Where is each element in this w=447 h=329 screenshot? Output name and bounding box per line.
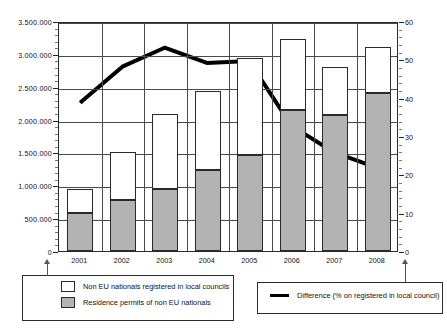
y2-axis-minor-tick xyxy=(399,114,402,115)
bar-segment-permits[interactable] xyxy=(322,115,348,251)
y2-axis-minor-tick xyxy=(399,37,402,38)
bar-segment-permits[interactable] xyxy=(67,213,93,251)
legend-item-permits: Residence permits of non EU nationals xyxy=(61,297,233,308)
legend-label-registered: Non EU nationals registered in local cou… xyxy=(83,283,229,290)
x-axis-tick-label: 2006 xyxy=(284,256,300,265)
bar-group[interactable] xyxy=(152,21,178,251)
gray-square-swatch-icon xyxy=(61,297,75,308)
y2-axis-minor-tick xyxy=(399,145,402,146)
bar-group[interactable] xyxy=(110,21,136,251)
y2-axis-minor-tick xyxy=(399,168,402,169)
bar-segment-registered[interactable] xyxy=(195,91,221,171)
y2-axis-minor-tick xyxy=(399,129,402,130)
y2-axis-minor-tick xyxy=(399,191,402,192)
black-line-swatch-icon xyxy=(270,294,289,297)
bar-segment-registered[interactable] xyxy=(237,58,263,155)
gridline-vertical xyxy=(187,23,188,251)
y2-axis-minor-tick xyxy=(399,91,402,92)
gridline-vertical xyxy=(102,23,103,251)
legend-bars: Non EU nationals registered in local cou… xyxy=(22,275,234,321)
y2-axis-minor-tick xyxy=(399,221,402,222)
y2-axis-minor-tick xyxy=(399,30,402,31)
x-axis-tick-label: 2005 xyxy=(241,256,257,265)
bar-segment-permits[interactable] xyxy=(280,110,306,251)
white-square-swatch-icon xyxy=(61,281,75,292)
y2-axis-minor-tick xyxy=(399,45,402,46)
y2-axis-minor-tick xyxy=(399,160,402,161)
y2-axis-minor-tick xyxy=(399,152,402,153)
y2-axis-minor-tick xyxy=(399,53,402,54)
y2-axis-major-tick xyxy=(399,214,404,215)
legend-item-registered: Non EU nationals registered in local cou… xyxy=(61,281,233,292)
bar-segment-permits[interactable] xyxy=(152,189,178,251)
gridline-vertical xyxy=(272,23,273,251)
y2-axis-minor-tick xyxy=(399,237,402,238)
bar-group[interactable] xyxy=(67,21,93,251)
bar-segment-permits[interactable] xyxy=(237,155,263,251)
plot-area xyxy=(58,22,398,252)
y2-axis-major-tick xyxy=(399,252,404,253)
x-axis-tick-label: 2007 xyxy=(326,256,342,265)
gridline-vertical xyxy=(357,23,358,251)
x-axis-tick-label: 2002 xyxy=(114,256,130,265)
y2-axis-major-tick xyxy=(399,60,404,61)
x-axis-tick-label: 2001 xyxy=(71,256,87,265)
bar-segment-registered[interactable] xyxy=(67,189,93,213)
x-axis-tick-label: 2004 xyxy=(199,256,215,265)
y2-axis-major-tick xyxy=(399,137,404,138)
y-axis-major-tick xyxy=(53,252,58,253)
chart-figure: 0500.0001.000.0001.500.0002.000.0002.500… xyxy=(0,0,447,329)
legend-label-difference: Difference (% on registered in local cou… xyxy=(297,292,439,299)
gridline-vertical xyxy=(144,23,145,251)
legend-item-difference: Difference (% on registered in local cou… xyxy=(270,292,442,299)
x-axis-tick-label: 2008 xyxy=(369,256,385,265)
legend-label-permits: Residence permits of non EU nationals xyxy=(83,299,211,306)
y2-axis-major-tick xyxy=(399,99,404,100)
bar-group[interactable] xyxy=(280,21,306,251)
y2-axis-minor-tick xyxy=(399,122,402,123)
bar-segment-permits[interactable] xyxy=(365,93,391,251)
y2-axis-minor-tick xyxy=(399,206,402,207)
gridline-vertical xyxy=(314,23,315,251)
bar-group[interactable] xyxy=(365,21,391,251)
bar-group[interactable] xyxy=(237,21,263,251)
bar-segment-permits[interactable] xyxy=(110,200,136,251)
y2-axis-minor-tick xyxy=(399,68,402,69)
bar-segment-registered[interactable] xyxy=(322,67,348,115)
legend-line: Difference (% on registered in local cou… xyxy=(257,282,443,314)
y2-axis-minor-tick xyxy=(399,83,402,84)
y2-axis-major-tick xyxy=(399,22,404,23)
y2-axis-major-tick xyxy=(399,175,404,176)
y2-axis-minor-tick xyxy=(399,183,402,184)
right-caret-connector xyxy=(405,270,406,282)
bar-segment-registered[interactable] xyxy=(280,39,306,109)
y2-axis-minor-tick xyxy=(399,244,402,245)
bar-segment-registered[interactable] xyxy=(365,47,391,92)
y2-axis-minor-tick xyxy=(399,106,402,107)
bar-group[interactable] xyxy=(195,21,221,251)
bar-segment-permits[interactable] xyxy=(195,170,221,251)
y2-axis-minor-tick xyxy=(399,229,402,230)
gridline-vertical xyxy=(229,23,230,251)
y2-axis-minor-tick xyxy=(399,198,402,199)
x-axis-tick-label: 2003 xyxy=(156,256,172,265)
bar-segment-registered[interactable] xyxy=(152,114,178,188)
y2-axis-minor-tick xyxy=(399,76,402,77)
bar-group[interactable] xyxy=(322,21,348,251)
left-caret-connector xyxy=(47,270,48,276)
bar-segment-registered[interactable] xyxy=(110,152,136,200)
